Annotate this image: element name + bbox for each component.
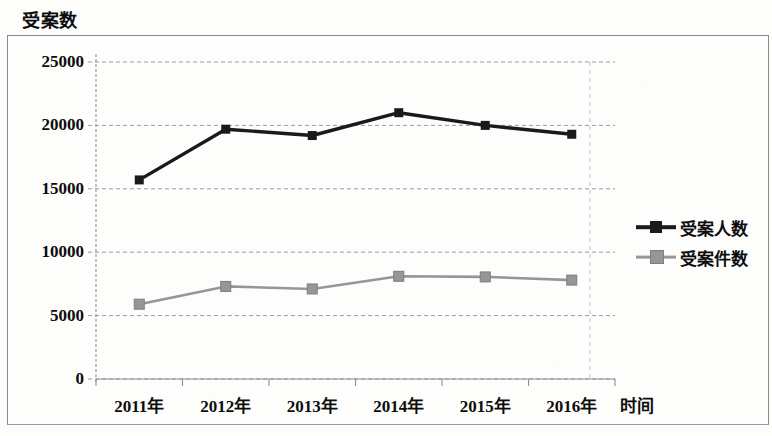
x-axis-title: 时间 <box>620 392 654 417</box>
data-point-marker <box>394 108 403 117</box>
y-axis-tick-label: 5000 <box>4 306 84 326</box>
chart-page: 受案数 0500010000150002000025000 2011年2012年… <box>0 0 772 436</box>
x-axis-tick-label: 2015年 <box>460 392 511 417</box>
gridlines <box>88 62 615 379</box>
axis-lines <box>96 54 615 386</box>
x-axis-tick-label: 2011年 <box>114 392 164 417</box>
legend-key-icon <box>636 250 676 264</box>
data-point-marker <box>134 299 144 309</box>
data-point-marker <box>394 271 404 281</box>
series-line-2 <box>139 276 572 304</box>
legend-item-label: 受案人数 <box>680 215 748 240</box>
data-series-layer <box>134 108 577 309</box>
y-axis-tick-label: 15000 <box>4 179 84 199</box>
y-axis-tick-label: 20000 <box>4 115 84 135</box>
data-point-marker <box>480 272 490 282</box>
data-point-marker <box>221 125 230 134</box>
legend-marker-icon <box>650 221 662 233</box>
y-axis-tick-label: 10000 <box>4 242 84 262</box>
x-axis-tick-label: 2014年 <box>373 392 424 417</box>
data-point-marker <box>308 131 317 140</box>
x-axis-tick-label: 2013年 <box>287 392 338 417</box>
legend-item-2[interactable]: 受案件数 <box>636 242 768 272</box>
y-axis-tick-label: 0 <box>4 369 84 389</box>
legend-item-1[interactable]: 受案人数 <box>636 212 768 242</box>
legend-item-label: 受案件数 <box>680 245 748 270</box>
data-point-marker <box>567 275 577 285</box>
data-point-marker <box>481 121 490 130</box>
data-point-marker <box>307 284 317 294</box>
chart-legend: 受案人数受案件数 <box>636 212 768 272</box>
legend-marker-icon <box>650 250 664 264</box>
x-axis-tick-label: 2016年 <box>546 392 597 417</box>
data-point-marker <box>221 281 231 291</box>
series-line-1 <box>139 113 572 180</box>
data-point-marker <box>135 175 144 184</box>
data-point-marker <box>567 130 576 139</box>
x-axis-tick-label: 2012年 <box>200 392 251 417</box>
y-axis-tick-label: 25000 <box>4 52 84 72</box>
legend-key-icon <box>636 220 676 234</box>
